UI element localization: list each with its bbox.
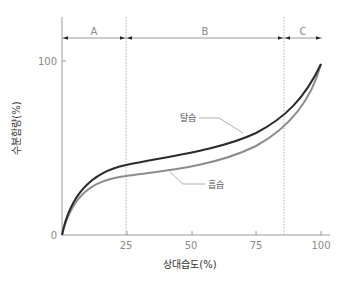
sorption-isotherm-chart: 100 0 25 50 75 100 상대습도(%) 수분함량(%) A B C… [0,0,347,291]
x-tick-label-50: 50 [185,240,198,251]
x-tick-label-75: 75 [250,240,263,251]
adsorption-label: 흡습 [208,179,224,190]
region-label-a: A [91,26,98,37]
region-label-b: B [202,26,209,37]
region-label-c: C [300,26,307,37]
x-tick-label-25: 25 [120,240,133,251]
desorption-leader-line [199,118,243,133]
x-axis-title: 상대습도(%) [163,259,216,270]
y-axis-title: 수분함량(%) [11,101,22,154]
adsorption-leader-line [170,172,205,184]
y-tick-label-100: 100 [38,56,57,67]
desorption-label: 탈습 [180,113,196,123]
desorption-curve [62,64,321,235]
y-tick-label-0: 0 [51,230,57,241]
adsorption-curve [62,64,321,235]
x-tick-label-100: 100 [311,240,330,251]
